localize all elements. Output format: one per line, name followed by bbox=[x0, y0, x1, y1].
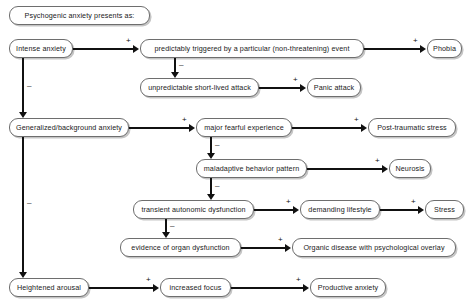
sign-generalized-to-arousal: – bbox=[27, 199, 31, 207]
edge-transient-to-demanding bbox=[254, 209, 293, 211]
sign-intense-to-generalized: – bbox=[27, 82, 31, 90]
sign-organ-evidence-to-organic-disease: + bbox=[278, 236, 283, 244]
edge-fearful-to-ptsd bbox=[292, 127, 361, 129]
arrowhead-focus-to-productive bbox=[303, 284, 309, 292]
sign-demanding-to-stress: + bbox=[411, 198, 416, 206]
edge-intense-to-generalized bbox=[22, 58, 24, 112]
sign-arousal-to-focus: + bbox=[146, 276, 151, 284]
node-neurosis[interactable]: Neurosis bbox=[389, 159, 431, 178]
sign-maladaptive-to-neurosis: + bbox=[375, 157, 380, 165]
node-maladaptive-behavior-pattern[interactable]: maladaptive behavior pattern bbox=[196, 159, 307, 178]
node-demanding-lifestyle[interactable]: demanding lifestyle bbox=[300, 200, 380, 219]
edge-predictably-to-phobia bbox=[364, 48, 420, 50]
arrowhead-predictably-to-unpredictable bbox=[171, 72, 179, 78]
node-phobia[interactable]: Phobia bbox=[427, 39, 462, 58]
arrowhead-intense-to-generalized bbox=[19, 112, 27, 118]
edge-generalized-to-fearful bbox=[129, 127, 189, 129]
arrowhead-fearful-to-maladaptive bbox=[207, 153, 215, 159]
sign-transient-to-demanding: + bbox=[286, 198, 291, 206]
arrowhead-predictably-to-phobia bbox=[420, 45, 426, 53]
node-unpredictable-short-lived-attack[interactable]: unpredictable short-lived attack bbox=[140, 78, 259, 97]
node-major-fearful-experience[interactable]: major fearful experience bbox=[196, 118, 292, 137]
arrowhead-intense-to-predictably bbox=[133, 45, 139, 53]
edge-generalized-to-arousal bbox=[22, 137, 24, 272]
sign-focus-to-productive: + bbox=[296, 276, 301, 284]
arrowhead-maladaptive-to-neurosis bbox=[382, 165, 388, 173]
arrowhead-transient-to-demanding bbox=[293, 206, 299, 214]
node-transient-autonomic-dysfunction[interactable]: transient autonomic dysfunction bbox=[133, 200, 254, 219]
sign-fearful-to-ptsd: + bbox=[354, 116, 359, 124]
node-title: Psychogenic anxiety presents as: bbox=[9, 6, 150, 25]
arrowhead-unpredictable-to-panic bbox=[300, 84, 306, 92]
sign-intense-to-predictably: + bbox=[126, 37, 131, 45]
flowchart-canvas: Psychogenic anxiety presents as: Intense… bbox=[0, 0, 471, 305]
sign-transient-to-organ-evidence: – bbox=[170, 222, 174, 230]
node-organic-disease-with-psychological-overlay[interactable]: Organic disease with psychological overl… bbox=[292, 238, 456, 257]
edge-demanding-to-stress bbox=[380, 209, 418, 211]
arrowhead-fearful-to-ptsd bbox=[361, 124, 367, 132]
sign-predictably-to-phobia: + bbox=[413, 37, 418, 45]
node-predictably-triggered[interactable]: predictably triggered by a particular (n… bbox=[140, 39, 364, 58]
node-evidence-of-organ-dysfunction[interactable]: evidence of organ dysfunction bbox=[120, 238, 241, 257]
arrowhead-transient-to-organ-evidence bbox=[162, 232, 170, 238]
node-heightened-arousal[interactable]: Heightened arousal bbox=[9, 278, 89, 297]
arrowhead-arousal-to-focus bbox=[153, 284, 159, 292]
node-intense-anxiety[interactable]: Intense anxiety bbox=[9, 39, 73, 58]
node-increased-focus[interactable]: increased focus bbox=[160, 278, 231, 297]
edge-transient-to-organ-evidence bbox=[165, 219, 167, 232]
edge-fearful-to-maladaptive bbox=[210, 137, 212, 153]
edge-intense-to-predictably bbox=[73, 48, 133, 50]
node-panic-attack[interactable]: Panic attack bbox=[307, 78, 361, 97]
node-generalized-background-anxiety[interactable]: Generalized/background anxiety bbox=[9, 118, 129, 137]
arrowhead-generalized-to-fearful bbox=[189, 124, 195, 132]
arrowhead-maladaptive-to-transient bbox=[207, 194, 215, 200]
arrowhead-generalized-to-arousal bbox=[19, 272, 27, 278]
node-stress[interactable]: Stress bbox=[425, 200, 464, 219]
edge-organ-evidence-to-organic-disease bbox=[241, 247, 285, 249]
sign-predictably-to-unpredictable: – bbox=[179, 61, 183, 69]
node-productive-anxiety[interactable]: Productive anxiety bbox=[310, 278, 386, 297]
edge-focus-to-productive bbox=[231, 287, 303, 289]
sign-fearful-to-maladaptive: – bbox=[215, 141, 219, 149]
arrowhead-organ-evidence-to-organic-disease bbox=[285, 244, 291, 252]
sign-unpredictable-to-panic: + bbox=[293, 76, 298, 84]
sign-maladaptive-to-transient: – bbox=[215, 182, 219, 190]
sign-generalized-to-fearful: + bbox=[182, 116, 187, 124]
edge-unpredictable-to-panic bbox=[259, 87, 300, 89]
edge-maladaptive-to-transient bbox=[210, 178, 212, 194]
edge-arousal-to-focus bbox=[89, 287, 153, 289]
edge-predictably-to-unpredictable bbox=[174, 58, 176, 72]
arrowhead-demanding-to-stress bbox=[418, 206, 424, 214]
node-post-traumatic-stress[interactable]: Post-traumatic stress bbox=[368, 118, 456, 137]
edge-maladaptive-to-neurosis bbox=[307, 168, 382, 170]
